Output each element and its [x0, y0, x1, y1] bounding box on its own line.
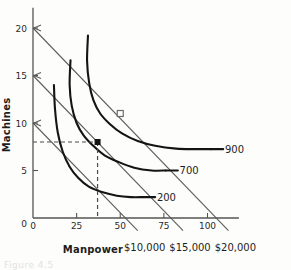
- curve-value-labels: 200700900: [157, 144, 244, 203]
- axes-group: [33, 8, 239, 218]
- isoquant-isocost-figure: 0255075100 05101520 200700900 $10,000$15…: [0, 0, 291, 270]
- x-tick-label-100: 100: [199, 221, 216, 231]
- y-axis-title: Machines: [1, 98, 12, 153]
- x-tick-label-50: 50: [115, 221, 127, 231]
- curve-label-700: 700: [180, 165, 199, 176]
- isocost-lines-group: [33, 25, 228, 231]
- tick-marks-group: [33, 28, 208, 218]
- y-tick-label-15: 15: [16, 71, 27, 81]
- y-tick-label-0: 0: [21, 219, 27, 229]
- curve-label-200: 200: [157, 192, 176, 203]
- isocost-value-labels: $10,000$15,000$20,000: [124, 242, 256, 253]
- x-tick-labels: 0255075100: [30, 221, 216, 231]
- chart-canvas: 0255075100 05101520 200700900 $10,000$15…: [0, 0, 291, 270]
- x-axis-title: Manpower: [63, 244, 123, 255]
- isocost-label-20000: $20,000: [215, 242, 256, 253]
- y-tick-label-20: 20: [16, 24, 28, 34]
- x-tick-label-25: 25: [71, 221, 82, 231]
- curve-label-900: 900: [225, 144, 244, 155]
- y-tick-label-5: 5: [21, 166, 27, 176]
- isocost-line-20000: [33, 28, 228, 231]
- isocost-label-10000: $10,000: [124, 242, 165, 253]
- x-tick-label-0: 0: [30, 221, 36, 231]
- marker-optimum-700: [95, 140, 100, 145]
- marker-point-900: [117, 111, 123, 117]
- y-tick-labels: 05101520: [16, 24, 28, 230]
- x-tick-label-75: 75: [158, 221, 169, 231]
- isocost-line-15000: [33, 76, 183, 231]
- y-tick-label-10: 10: [16, 119, 28, 129]
- data-point-markers: [95, 111, 123, 145]
- figure-caption-ghost: Figure 4.5: [4, 260, 54, 270]
- isoquant-curve-900: [87, 36, 211, 150]
- isocost-label-15000: $15,000: [169, 242, 210, 253]
